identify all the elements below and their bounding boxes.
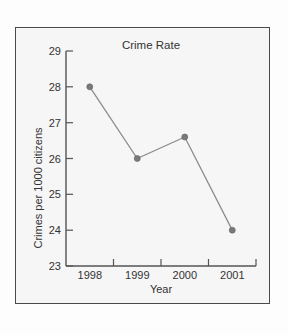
y-tick-label: 25: [49, 188, 61, 200]
y-tick-group: 23 24 25 26 27 28 29: [49, 45, 73, 272]
x-tick-label: 1998: [78, 269, 102, 281]
x-tick-label: 2000: [173, 269, 197, 281]
series-line-crime-rate: [90, 87, 233, 230]
y-tick-label: 24: [49, 224, 61, 236]
y-tick-label: 23: [49, 260, 61, 272]
chart-title: Crime Rate: [122, 39, 180, 51]
y-axis-label: Crimes per 1000 citizens: [32, 127, 44, 249]
x-tick-label: 1999: [125, 269, 149, 281]
y-tick-label: 26: [49, 153, 61, 165]
series-data-point: [134, 156, 140, 162]
y-tick-label: 28: [49, 81, 61, 93]
x-tick-group: 1998 1999 2000 2001: [78, 259, 256, 281]
x-axis-label: Year: [150, 283, 173, 295]
chart-frame: Crime Rate Crimes per 1000 citizens Year…: [15, 27, 270, 304]
y-tick-label: 27: [49, 117, 61, 129]
figure-root: Crime Rate Crimes per 1000 citizens Year…: [0, 0, 288, 335]
series-data-point: [182, 134, 188, 140]
y-tick-label: 29: [49, 45, 61, 57]
series-marker-group: [87, 84, 236, 233]
line-chart: Crime Rate Crimes per 1000 citizens Year…: [16, 28, 271, 305]
series-data-point: [229, 227, 235, 233]
x-tick-label: 2001: [220, 269, 244, 281]
series-data-point: [87, 84, 93, 90]
